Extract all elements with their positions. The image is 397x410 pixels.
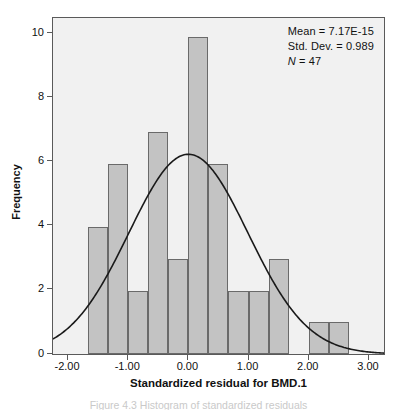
stat-n-symbol: N	[288, 55, 296, 67]
x-axis-title: Standardized residual for BMD.1	[52, 377, 385, 389]
x-tick-label-4: 2.00	[297, 360, 318, 372]
stat-n: N = 47	[288, 54, 374, 69]
y-tick-label-6: 6	[38, 154, 44, 166]
figure-caption: Figure 4.3 Histogram of standardized res…	[0, 399, 397, 410]
plot-area: Mean = 7.17E-15 Std. Dev. = 0.989 N = 47	[52, 17, 385, 355]
y-tick-label-10: 10	[32, 26, 44, 38]
y-axis: 0 2 4 6 8 10	[0, 0, 52, 410]
y-tick-label-8: 8	[38, 90, 44, 102]
histogram-figure: 0 2 4 6 8 10 Frequency Mean = 7.17E-15 S…	[0, 0, 397, 410]
x-tick-label-5: 3.00	[357, 360, 378, 372]
y-tick-label-4: 4	[38, 218, 44, 230]
x-tick-label-3: 1.00	[237, 360, 258, 372]
x-tick-label-1: -1.00	[115, 360, 140, 372]
stat-std-dev: Std. Dev. = 0.989	[288, 39, 374, 54]
stat-n-value: = 47	[296, 55, 321, 67]
y-axis-title: Frequency	[10, 132, 22, 252]
x-tick-label-2: 0.00	[177, 360, 198, 372]
statistics-box: Mean = 7.17E-15 Std. Dev. = 0.989 N = 47	[288, 24, 374, 69]
y-tick-label-0: 0	[38, 347, 44, 359]
stat-mean: Mean = 7.17E-15	[288, 24, 374, 39]
y-tick-label-2: 2	[38, 282, 44, 294]
x-tick-label-0: -2.00	[54, 360, 79, 372]
